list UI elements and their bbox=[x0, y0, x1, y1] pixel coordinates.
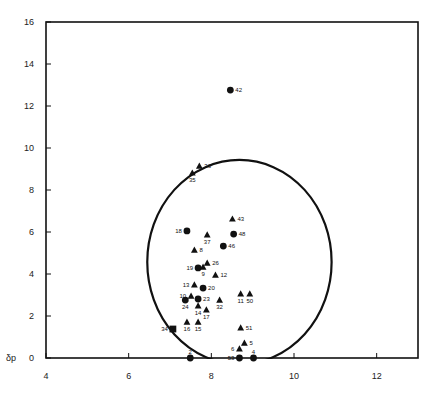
triangle-marker bbox=[212, 271, 219, 277]
triangle-marker bbox=[196, 162, 203, 168]
point-label: 23 bbox=[203, 296, 210, 302]
data-point-26: 26 bbox=[204, 259, 220, 266]
data-point-32: 32 bbox=[216, 296, 223, 310]
data-point-18: 18 bbox=[175, 228, 190, 235]
data-point-11: 11 bbox=[237, 290, 244, 304]
triangle-marker bbox=[188, 292, 195, 298]
data-point-23: 23 bbox=[195, 296, 211, 303]
y-tick-label: 4 bbox=[29, 269, 34, 279]
y-tick-label: 14 bbox=[24, 59, 34, 69]
point-label: 36 bbox=[204, 163, 211, 169]
point-label: 26 bbox=[212, 260, 219, 266]
data-point-8: 8 bbox=[191, 246, 203, 253]
x-tick-label: 4 bbox=[43, 371, 48, 381]
circle-marker bbox=[187, 355, 194, 362]
point-label: 34 bbox=[161, 326, 168, 332]
triangle-marker bbox=[195, 302, 202, 308]
data-point-12: 12 bbox=[212, 271, 228, 278]
triangle-marker bbox=[236, 345, 243, 351]
circle-marker bbox=[220, 243, 227, 250]
point-label: 18 bbox=[175, 228, 182, 234]
circle-marker bbox=[200, 285, 207, 292]
circle-marker bbox=[230, 231, 237, 238]
triangle-marker bbox=[246, 290, 253, 296]
y-tick-label: 10 bbox=[24, 143, 34, 153]
boundary-circle bbox=[147, 160, 331, 364]
triangle-marker bbox=[241, 339, 248, 345]
point-label: 42 bbox=[235, 87, 242, 93]
scatter-chart: 0246810121416 4681012 δp 423635431837484… bbox=[0, 0, 435, 393]
data-point-42: 42 bbox=[227, 87, 243, 94]
data-points: 4236354318374846826199121320101150242332… bbox=[161, 87, 257, 362]
y-tick-label: 12 bbox=[24, 101, 34, 111]
point-label: 8 bbox=[199, 247, 203, 253]
point-label: 12 bbox=[220, 272, 227, 278]
plot-frame bbox=[46, 22, 418, 358]
y-axis-label: δp bbox=[6, 353, 16, 363]
data-point-24: 24 bbox=[182, 297, 189, 310]
data-point-37: 37 bbox=[204, 231, 211, 245]
data-point-5: 5 bbox=[241, 339, 253, 346]
point-label: 51 bbox=[246, 325, 253, 331]
point-label: 13 bbox=[183, 282, 190, 288]
x-tick-label: 12 bbox=[372, 371, 382, 381]
triangle-marker bbox=[237, 324, 244, 330]
point-label: 9 bbox=[201, 271, 205, 277]
triangle-marker bbox=[204, 259, 211, 265]
triangle-marker bbox=[191, 246, 198, 252]
data-point-20: 20 bbox=[200, 285, 216, 292]
circle-marker bbox=[195, 296, 202, 303]
triangle-marker bbox=[216, 296, 223, 302]
point-label: 14 bbox=[195, 310, 202, 316]
point-label: 17 bbox=[203, 314, 210, 320]
point-label: 4 bbox=[252, 349, 256, 355]
y-tick-label: 0 bbox=[29, 353, 34, 363]
circle-marker bbox=[236, 355, 243, 362]
point-label: 5 bbox=[249, 340, 253, 346]
data-point-15: 15 bbox=[195, 318, 202, 332]
point-label: 46 bbox=[228, 243, 235, 249]
triangle-marker bbox=[237, 290, 244, 296]
point-label: 6 bbox=[231, 346, 235, 352]
data-point-46: 46 bbox=[220, 243, 236, 250]
data-point-48: 48 bbox=[230, 231, 246, 238]
circle-marker bbox=[182, 297, 189, 304]
point-label: 24 bbox=[182, 304, 189, 310]
data-point-51: 51 bbox=[237, 324, 253, 331]
point-label: 20 bbox=[208, 285, 215, 291]
y-tick-label: 8 bbox=[29, 185, 34, 195]
y-tick-label: 16 bbox=[24, 17, 34, 27]
data-point-19: 19 bbox=[186, 265, 201, 272]
data-point-13: 13 bbox=[183, 281, 198, 288]
data-point-50: 50 bbox=[246, 290, 253, 304]
x-tick-label: 8 bbox=[209, 371, 214, 381]
y-tick-label: 2 bbox=[29, 311, 34, 321]
solubility-boundary bbox=[147, 160, 331, 364]
triangle-marker bbox=[229, 215, 236, 221]
x-tick-label: 6 bbox=[126, 371, 131, 381]
triangle-marker bbox=[184, 318, 191, 324]
circle-marker bbox=[227, 87, 234, 94]
data-point-14: 14 bbox=[195, 302, 202, 316]
point-label: 37 bbox=[204, 239, 211, 245]
x-tick-label: 10 bbox=[289, 371, 299, 381]
data-point-16: 16 bbox=[184, 318, 191, 332]
point-label: 16 bbox=[184, 326, 191, 332]
data-point-43: 43 bbox=[229, 215, 245, 222]
triangle-marker bbox=[204, 231, 211, 237]
y-axis: 0246810121416 bbox=[24, 17, 51, 363]
point-label: 11 bbox=[238, 298, 245, 304]
point-label: 53 bbox=[228, 355, 235, 361]
point-label: 50 bbox=[246, 298, 253, 304]
point-label: 43 bbox=[237, 216, 244, 222]
point-label: 19 bbox=[186, 265, 193, 271]
data-point-6: 6 bbox=[231, 345, 243, 352]
square-marker bbox=[169, 326, 176, 333]
triangle-marker bbox=[203, 306, 210, 312]
data-point-36: 36 bbox=[196, 162, 212, 169]
data-point-17: 17 bbox=[203, 306, 210, 320]
circle-marker bbox=[250, 355, 257, 362]
point-label: 48 bbox=[239, 231, 246, 237]
data-point-4: 4 bbox=[250, 349, 257, 361]
point-label: 15 bbox=[195, 326, 202, 332]
